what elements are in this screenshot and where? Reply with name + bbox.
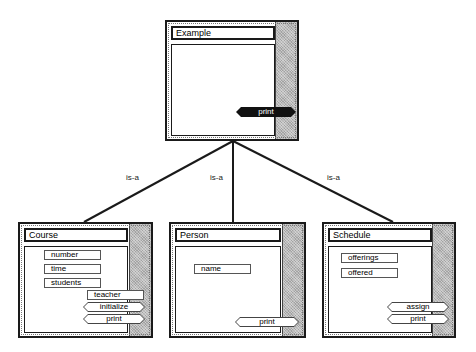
class-title-course: Course bbox=[24, 228, 128, 242]
class-title-schedule: Schedule bbox=[328, 228, 432, 242]
method-print-example[interactable]: print bbox=[236, 107, 296, 117]
class-box-person[interactable]: Person name print bbox=[169, 222, 306, 338]
class-body-example bbox=[171, 44, 275, 136]
method-print-schedule[interactable]: print bbox=[387, 314, 449, 324]
class-title-example: Example bbox=[171, 26, 275, 40]
method-assign-schedule[interactable]: assign bbox=[387, 302, 449, 312]
attribute-number: number bbox=[44, 250, 101, 260]
method-label: assign bbox=[388, 303, 448, 311]
method-print-course[interactable]: print bbox=[83, 314, 145, 324]
attribute-teacher: teacher bbox=[87, 290, 144, 300]
attribute-offered: offered bbox=[341, 268, 398, 278]
method-label: initialize bbox=[84, 303, 144, 311]
attribute-offerings: offerings bbox=[341, 253, 398, 263]
attribute-time: time bbox=[44, 264, 101, 274]
method-label: print bbox=[84, 315, 144, 323]
method-label: print bbox=[236, 318, 298, 326]
attribute-name: name bbox=[194, 264, 251, 274]
class-box-schedule[interactable]: Schedule offerings offered assign print bbox=[322, 222, 456, 338]
method-initialize-course[interactable]: initialize bbox=[83, 302, 145, 312]
shade-panel bbox=[275, 22, 297, 139]
edge-label-person: is-a bbox=[210, 173, 223, 182]
class-title-person: Person bbox=[175, 228, 281, 242]
method-label: print bbox=[388, 315, 448, 323]
edge-label-course: is-a bbox=[126, 173, 139, 182]
method-print-person[interactable]: print bbox=[235, 317, 299, 327]
edge-label-schedule: is-a bbox=[327, 173, 340, 182]
class-box-course[interactable]: Course number time students teacher init… bbox=[18, 222, 153, 338]
class-box-example[interactable]: Example print bbox=[165, 20, 299, 141]
attribute-students: students bbox=[44, 278, 101, 288]
